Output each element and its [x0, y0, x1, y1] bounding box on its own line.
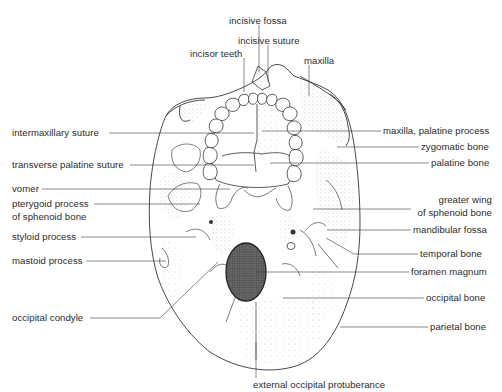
label-mandibular-fossa: mandibular fossa — [413, 224, 487, 235]
label-maxilla: maxilla — [304, 55, 334, 66]
label-pterygoid-process: pterygoid process — [12, 198, 89, 209]
label-incisive-fossa: incisive fossa — [229, 15, 287, 26]
label-zygomatic-bone: zygomatic bone — [421, 141, 489, 152]
label-incisor-teeth: incisor teeth — [190, 48, 242, 59]
label-greater-wing: greater wing — [439, 194, 492, 205]
label-occipital-condyle: occipital condyle — [12, 312, 83, 323]
label-mastoid-process: mastoid process — [12, 255, 83, 266]
label-occipital-bone: occipital bone — [426, 292, 485, 303]
label-external-occipital-protuberance: external occipital protuberance — [253, 379, 385, 390]
label-palatine-bone: palatine bone — [431, 157, 489, 168]
label-maxilla-palatine-process: maxilla, palatine process — [383, 125, 489, 136]
label-foramen-magnum: foramen magnum — [411, 266, 487, 277]
skull-diagram: incisive fossa incisive suture incisor t… — [0, 0, 502, 392]
leader-lines — [42, 25, 429, 378]
label-incisive-suture: incisive suture — [238, 35, 300, 46]
label-styloid-process: styloid process — [12, 231, 76, 242]
label-temporal-bone: temporal bone — [420, 248, 482, 259]
dental-arch — [203, 66, 303, 187]
label-parietal-bone: parietal bone — [430, 321, 486, 332]
label-intermaxillary-suture: intermaxillary suture — [12, 127, 99, 138]
skull-illustration — [0, 0, 502, 392]
label-vomer: vomer — [12, 183, 39, 194]
label-greater-wing-line2: of sphenoid bone — [418, 207, 492, 218]
label-transverse-palatine-suture: transverse palatine suture — [12, 159, 124, 170]
label-pterygoid-process-line2: of sphenoid bone — [12, 211, 86, 222]
